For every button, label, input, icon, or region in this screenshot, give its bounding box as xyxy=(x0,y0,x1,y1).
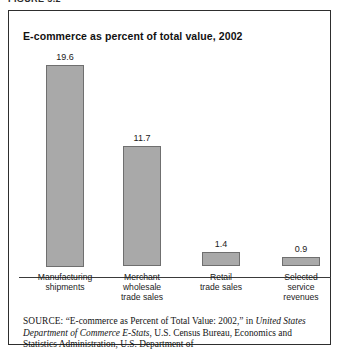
bar-4 xyxy=(282,257,320,266)
bar-label-line: Manufacturing xyxy=(38,272,92,282)
figure-frame: E-commerce as percent of total value, 20… xyxy=(8,10,331,345)
bar-category-label-4: Selectedservicerevenues xyxy=(253,272,338,303)
bar-3 xyxy=(202,252,240,266)
bar-1 xyxy=(46,65,84,267)
bar-label-line: revenues xyxy=(283,292,318,302)
bar-value-label-1: 19.6 xyxy=(34,52,96,62)
bar-label-line: service xyxy=(287,282,314,292)
bar-label-line: trade sales xyxy=(121,292,163,302)
source-note: SOURCE: “E-commerce as Percent of Total … xyxy=(23,316,325,351)
bar-value-label-2: 11.7 xyxy=(111,133,173,143)
bar-value-label-4: 0.9 xyxy=(270,244,332,254)
bar-label-line: shipments xyxy=(45,282,84,292)
source-label: SOURCE: xyxy=(23,316,63,326)
bar-label-line: Retail xyxy=(210,272,232,282)
bar-label-line: trade sales xyxy=(200,282,242,292)
bar-value-label-3: 1.4 xyxy=(190,239,252,249)
bar-label-line: wholesale xyxy=(123,282,161,292)
chart-title: E-commerce as percent of total value, 20… xyxy=(23,30,243,42)
bar-label-line: Selected xyxy=(284,272,317,282)
bar-label-line: Merchant xyxy=(124,272,160,282)
bar-2 xyxy=(123,146,161,267)
source-text-part1: “E-commerce as Percent of Total Value: 2… xyxy=(63,316,255,326)
figure-caption-cutoff: FIGURE 5.2 xyxy=(8,0,98,2)
